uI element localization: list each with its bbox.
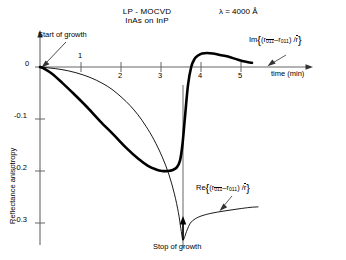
re-legend-sub-bar: 011 (214, 187, 222, 193)
reflectance-anisotropy-figure: LP - MOCVD InAs on InP λ = 4000 Å Start … (0, 0, 346, 260)
im-legend: Im{(r011–r011) /r} (249, 36, 302, 45)
y-tick-label-0: 0 (25, 60, 29, 68)
re-legend-brace-close: } (246, 182, 250, 194)
x-tick-label-5: 5 (238, 72, 242, 80)
re-legend-sub-plain: 011 (229, 186, 237, 192)
y-tick-label-neg03: -0.3 (14, 216, 27, 224)
title-line-2: InAs on InP (104, 17, 190, 26)
x-axis-label: time (min) (271, 70, 304, 78)
im-curve (40, 53, 252, 171)
x-tick-label-3: 3 (158, 72, 162, 80)
im-legend-sub-plain: 011 (281, 38, 289, 44)
im-legend-brace-close: } (298, 34, 302, 46)
stop-of-growth-label: Stop of growth (153, 243, 201, 251)
re-legend: Re{(r011–r011) /r} (196, 184, 250, 193)
re-legend-arrowhead (220, 204, 228, 211)
chart-title: LP - MOCVD InAs on InP (104, 8, 190, 26)
im-legend-sub-bar: 011 (266, 39, 274, 45)
x-tick-label-4: 4 (198, 72, 202, 80)
x-axis-arrowhead (306, 64, 314, 69)
y-tick-label-neg01: -0.1 (14, 112, 27, 120)
im-legend-paren-close: ) (289, 35, 292, 44)
re-legend-paren-close: ) (237, 183, 240, 192)
stop-of-growth-arrowhead (180, 216, 187, 225)
im-legend-arrowhead (268, 59, 276, 66)
re-legend-denominator: r (244, 184, 247, 192)
re-legend-prefix: Re (196, 183, 206, 192)
start-of-growth-label: Start of growth (38, 31, 87, 39)
x-tick-label-2: 2 (118, 72, 122, 80)
y-tick-label-neg02: -0.2 (14, 164, 27, 172)
y-axis-label: Reflectance anisotropy (9, 148, 17, 224)
im-legend-denominator: r (296, 36, 299, 44)
wavelength-label: λ = 4000 Å (219, 8, 257, 17)
start-of-growth-leader (45, 42, 66, 64)
x-tick-label-1: 1 (78, 52, 82, 60)
